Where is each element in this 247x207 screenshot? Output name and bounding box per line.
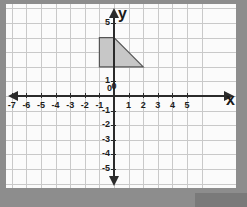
x-tick-label: 3	[150, 101, 166, 110]
y-tick-label: 0	[98, 84, 112, 93]
grid-panel: -7-6-5-4-3-2-1012345510-1-2-3-4-5	[6, 4, 236, 188]
background-corner-patch	[195, 193, 247, 207]
x-tick-mark	[99, 93, 100, 98]
x-tick-label: 5	[179, 101, 195, 110]
y-tick-mark	[111, 125, 116, 126]
x-tick-mark	[70, 93, 71, 98]
x-axis	[10, 95, 226, 97]
gridline-horizontal	[6, 38, 236, 39]
y-tick-mark	[111, 23, 116, 24]
y-tick-mark	[111, 154, 116, 155]
y-tick-label: -1	[96, 106, 110, 115]
y-axis	[113, 14, 115, 182]
gridline-horizontal	[6, 125, 236, 126]
x-tick-label: 2	[135, 101, 151, 110]
x-tick-label: -3	[62, 101, 78, 110]
gridline-horizontal	[6, 67, 236, 68]
y-tick-mark	[111, 140, 116, 141]
x-tick-label: -5	[33, 101, 49, 110]
x-tick-mark	[158, 93, 159, 98]
x-tick-label: -2	[77, 101, 93, 110]
y-tick-mark	[111, 169, 116, 170]
gridline-horizontal	[6, 184, 236, 185]
gridline-horizontal	[6, 52, 236, 53]
gridline-horizontal	[6, 23, 236, 24]
coordinate-plane-figure: -7-6-5-4-3-2-1012345510-1-2-3-4-5 y x	[0, 0, 247, 207]
gridline-horizontal	[6, 111, 236, 112]
gridline-horizontal	[6, 169, 236, 170]
x-tick-mark	[143, 93, 144, 98]
x-tick-label: -6	[18, 101, 34, 110]
x-tick-mark	[129, 93, 130, 98]
x-tick-mark	[172, 93, 173, 98]
x-tick-mark	[26, 93, 27, 98]
x-tick-mark	[85, 93, 86, 98]
x-axis-label: x	[226, 92, 235, 108]
y-tick-mark	[111, 111, 116, 112]
y-tick-label: -5	[96, 164, 110, 173]
x-tick-label: -4	[48, 101, 64, 110]
y-axis-label: y	[118, 6, 127, 22]
x-tick-mark	[56, 93, 57, 98]
x-tick-label: 1	[121, 101, 137, 110]
x-tick-mark	[41, 93, 42, 98]
y-tick-label: -2	[96, 120, 110, 129]
gridline-horizontal	[6, 154, 236, 155]
x-tick-mark	[12, 93, 13, 98]
y-tick-label: -3	[96, 135, 110, 144]
gridline-horizontal	[6, 140, 236, 141]
y-tick-label: 5	[96, 18, 110, 27]
x-tick-label: 4	[164, 101, 180, 110]
x-tick-mark	[187, 93, 188, 98]
y-tick-label: -4	[96, 149, 110, 158]
